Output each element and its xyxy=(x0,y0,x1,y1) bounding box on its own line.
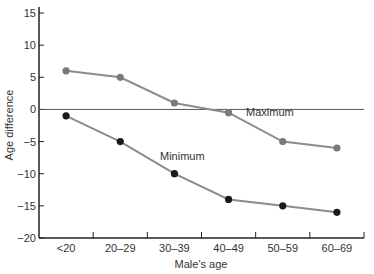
y-tick-label: −10 xyxy=(17,168,36,180)
data-point xyxy=(117,138,124,145)
data-point xyxy=(62,67,69,74)
data-point xyxy=(333,144,340,151)
data-point xyxy=(117,74,124,81)
y-axis: 151050−5−10−15−20 xyxy=(17,7,44,244)
series-group xyxy=(62,67,340,216)
x-tick-label: 60–69 xyxy=(322,242,353,254)
x-tick-label: 20–29 xyxy=(105,242,136,254)
x-axis: <2020–2930–3940–4950–5960–69 xyxy=(39,232,364,254)
y-tick-label: 5 xyxy=(30,71,36,83)
series-line xyxy=(66,116,337,212)
series-minimum xyxy=(62,112,340,216)
x-tick-label: <20 xyxy=(57,242,76,254)
y-tick-label: 15 xyxy=(24,7,36,19)
series-label-maximum: Maximum xyxy=(246,106,294,118)
data-point xyxy=(279,138,286,145)
y-tick-label: 10 xyxy=(24,39,36,51)
y-tick-label: −15 xyxy=(17,200,36,212)
y-tick-label: −5 xyxy=(23,136,36,148)
x-axis-title: Male's age xyxy=(175,258,228,270)
data-point xyxy=(279,202,286,209)
x-tick-label: 50–59 xyxy=(267,242,298,254)
line-chart: 151050−5−10−15−20 <2020–2930–3940–4950–5… xyxy=(0,0,374,274)
x-tick-label: 40–49 xyxy=(213,242,244,254)
x-tick-label: 30–39 xyxy=(159,242,190,254)
data-point xyxy=(171,170,178,177)
data-point xyxy=(333,209,340,216)
data-point xyxy=(171,99,178,106)
series-label-minimum: Minimum xyxy=(160,150,205,162)
y-tick-label: 0 xyxy=(30,103,36,115)
data-point xyxy=(62,112,69,119)
data-point xyxy=(225,196,232,203)
data-point xyxy=(225,109,232,116)
y-axis-title: Age difference xyxy=(3,90,15,161)
y-tick-label: −20 xyxy=(17,232,36,244)
